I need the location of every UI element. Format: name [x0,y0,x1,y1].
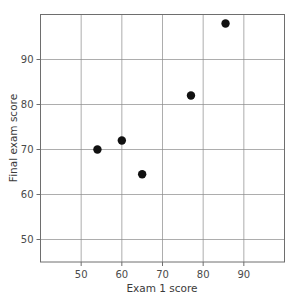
y-tick-label: 50 [21,234,34,245]
x-tick-label: 80 [197,269,210,280]
y-tick-label: 60 [21,189,34,200]
scatter-plot-svg: 5060708090 5060708090 Exam 1 score Final… [0,0,291,298]
data-point [138,170,146,178]
data-point [221,19,229,27]
screenshot-root: 5060708090 5060708090 Exam 1 score Final… [0,0,291,298]
x-axis-title: Exam 1 score [126,282,197,294]
y-tick-label: 80 [21,99,34,110]
x-tick-label: 70 [156,269,169,280]
y-axis-title: Final exam score [7,94,19,182]
x-tick-label: 60 [115,269,128,280]
y-tick-label: 90 [21,54,34,65]
x-tick-label: 90 [237,269,250,280]
x-tick-labels: 5060708090 [75,269,250,280]
data-points-group [93,19,230,178]
data-point [187,91,195,99]
gridlines-group [41,15,285,263]
y-tick-labels: 5060708090 [21,54,34,245]
data-point [93,145,101,153]
x-tick-label: 50 [75,269,88,280]
y-tick-label: 70 [21,144,34,155]
data-point [118,136,126,144]
scatter-plot-figure: 5060708090 5060708090 Exam 1 score Final… [0,0,291,298]
tickmarks-group [37,60,244,267]
